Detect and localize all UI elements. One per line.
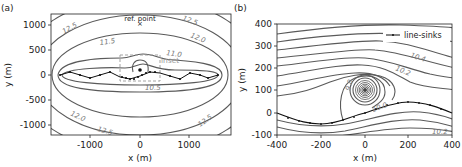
legend-label: line-sinks bbox=[404, 31, 442, 40]
y-tick: 100 bbox=[255, 85, 272, 95]
figure: (a) inset bbox=[0, 0, 462, 167]
legend: line-sinks bbox=[383, 28, 450, 42]
x-tick: -200 bbox=[311, 140, 332, 150]
y-tick: 200 bbox=[255, 63, 272, 73]
x-tick: -1000 bbox=[77, 140, 103, 150]
x-tick: 0 bbox=[362, 140, 368, 150]
panel-a-label: (a) bbox=[1, 3, 14, 13]
contour-label: 10.2 bbox=[394, 64, 412, 77]
panel-a: (a) inset bbox=[1, 0, 262, 163]
x-axis-label: x (m) bbox=[353, 153, 377, 163]
well-a bbox=[138, 68, 142, 72]
y-tick: -100 bbox=[252, 130, 273, 140]
x-tick: 400 bbox=[443, 140, 460, 150]
y-tick: 400 bbox=[255, 19, 272, 29]
y-axis-label: y (m) bbox=[237, 68, 247, 92]
ref-point-label: ref. point bbox=[124, 15, 156, 23]
x-tick: -400 bbox=[267, 140, 288, 150]
contour-label: 10.5 bbox=[145, 84, 161, 92]
x-tick: 200 bbox=[399, 140, 416, 150]
panel-b: (b) bbox=[234, 3, 461, 163]
contour-label: 11.5 bbox=[99, 37, 116, 47]
contour-label: 12.5 bbox=[181, 14, 199, 27]
contour-label: 12.0 bbox=[189, 31, 207, 44]
y-tick: 1000 bbox=[23, 20, 46, 30]
contour-label: 10.4 bbox=[409, 51, 426, 63]
panel-b-label: (b) bbox=[234, 3, 247, 13]
line-sinks-a bbox=[60, 72, 218, 79]
x-tick: 1000 bbox=[178, 140, 201, 150]
contour-label: 12.5 bbox=[197, 113, 215, 129]
y-tick: 500 bbox=[29, 45, 46, 55]
y-tick: 0 bbox=[266, 108, 272, 118]
y-tick: 300 bbox=[255, 41, 272, 51]
contour-label: 12.5 bbox=[61, 21, 79, 36]
y-tick: -500 bbox=[26, 95, 47, 105]
x-axis-label: x (m) bbox=[128, 153, 152, 163]
contour-label: 12.0 bbox=[69, 110, 87, 124]
y-tick: 0 bbox=[40, 70, 46, 80]
x-tick: 0 bbox=[137, 140, 143, 150]
y-axis-label: y (m) bbox=[3, 63, 13, 87]
y-tick: -1000 bbox=[20, 120, 46, 130]
